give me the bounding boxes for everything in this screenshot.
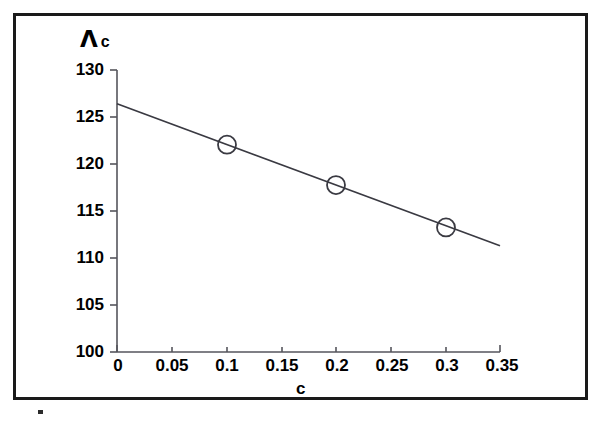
y-tick-marks (110, 70, 117, 352)
x-tick-marks (117, 345, 500, 352)
figure-canvas: Λc c 130 125 120 115 110 105 100 0 0.05 … (0, 0, 604, 424)
plot-graphics (0, 0, 604, 424)
plot-area: Λc c 130 125 120 115 110 105 100 0 0.05 … (0, 0, 604, 424)
fit-line (117, 104, 500, 246)
